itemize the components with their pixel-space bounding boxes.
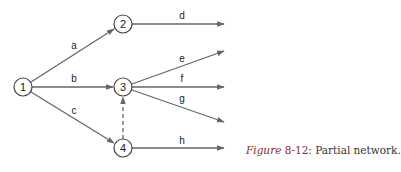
edge-label-c: c (72, 105, 77, 116)
node-4: 4 (114, 139, 132, 157)
edge-g (132, 90, 224, 122)
edge-label-a: a (71, 40, 77, 51)
figure-caption: Figure 8-12: Partial network. (246, 144, 401, 156)
edge-label-d: d (179, 10, 185, 21)
edge-label-e: e (179, 53, 185, 64)
edge-label-f: f (181, 73, 184, 84)
node-3: 3 (114, 78, 132, 96)
svg-text:3: 3 (120, 81, 126, 93)
svg-text:2: 2 (120, 18, 126, 30)
node-1: 1 (14, 78, 32, 96)
edge-label-h: h (179, 135, 185, 146)
edge-c (31, 92, 114, 143)
caption-number: 8-12 (285, 144, 309, 156)
node-2: 2 (114, 15, 132, 33)
svg-text:1: 1 (20, 81, 26, 93)
edge-e (132, 51, 224, 84)
edge-label-g: g (179, 93, 185, 104)
edge-label-b: b (71, 73, 77, 84)
svg-text:4: 4 (120, 142, 126, 154)
caption-text: : Partial network. (308, 144, 401, 156)
caption-figure-word: Figure (246, 144, 281, 156)
